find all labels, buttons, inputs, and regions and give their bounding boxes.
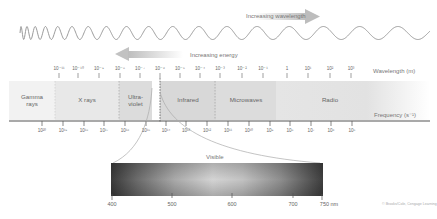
wavelength-tick: 10⁻¹¹ bbox=[53, 66, 64, 71]
visible-tick: 400 bbox=[107, 201, 116, 207]
frequency-tick: 10⁶ bbox=[327, 128, 334, 133]
wavelength-tick: 1 bbox=[286, 66, 289, 71]
band-infrared: Infrared bbox=[160, 96, 216, 103]
frequency-tick: 10¹⁶ bbox=[121, 128, 130, 133]
energy-arrow-label: Increasing energy bbox=[190, 52, 238, 58]
frequency-tick-marks bbox=[42, 121, 352, 126]
wavelength-axis-label: Wavelength (m) bbox=[373, 68, 415, 74]
wavelength-tick-marks bbox=[59, 73, 351, 78]
wavelength-tick: 10⁻⁴ bbox=[195, 66, 205, 71]
band-x-rays: X rays bbox=[55, 96, 119, 103]
band-radio: Radio bbox=[300, 96, 360, 103]
band-ultraviolet: Ultra- violet bbox=[119, 93, 152, 107]
frequency-tick: 10¹⁸ bbox=[80, 128, 89, 133]
wavelength-tick: 10¹ bbox=[305, 66, 312, 71]
frequency-tick: 10⁷ bbox=[308, 128, 315, 133]
frequency-tick: 10⁵ bbox=[348, 128, 355, 133]
frequency-tick: 10¹⁷ bbox=[100, 128, 108, 133]
frequency-tick: 10¹¹ bbox=[224, 128, 232, 133]
visible-tick: 700 bbox=[288, 201, 297, 207]
wavelength-tick: 10³ bbox=[348, 66, 355, 71]
frequency-tick: 10¹⁹ bbox=[59, 128, 68, 133]
frequency-tick: 10¹² bbox=[203, 128, 211, 133]
frequency-tick: 10¹⁵ bbox=[142, 128, 151, 133]
copyright-credit: © Brooks/Cole, Cengage Learning bbox=[382, 202, 437, 206]
visible-tick: 500 bbox=[167, 201, 176, 207]
wavelength-tick: 10⁻⁷ bbox=[135, 66, 145, 71]
frequency-axis-label: Frequency (s⁻¹) bbox=[374, 111, 416, 118]
visible-title: Visible bbox=[206, 154, 224, 160]
visible-tick: 600 bbox=[227, 201, 236, 207]
frequency-tick: 10⁹ bbox=[266, 128, 273, 133]
wavelength-tick: 10⁻¹ bbox=[258, 66, 268, 71]
wavelength-tick: 10² bbox=[327, 66, 334, 71]
frequency-tick: 10⁸ bbox=[286, 128, 293, 133]
frequency-tick: 10²⁰ bbox=[38, 128, 47, 133]
em-wave bbox=[20, 27, 430, 40]
wavelength-tick: 10⁻⁵ bbox=[175, 66, 185, 71]
visible-tick: 750 nm bbox=[320, 201, 338, 207]
wavelength-arrow-label: Increasing wavelength bbox=[246, 13, 306, 19]
frequency-tick: 10¹⁰ bbox=[245, 128, 254, 133]
wavelength-tick: 10⁻¹⁰ bbox=[72, 66, 84, 71]
frequency-tick: 10¹³ bbox=[182, 128, 190, 133]
wavelength-tick: 10⁻⁸ bbox=[115, 66, 125, 71]
frequency-tick: 10¹⁴ bbox=[162, 128, 171, 133]
band-gamma-rays: Gamma rays bbox=[9, 93, 55, 107]
band-microwaves: Microwaves bbox=[216, 96, 276, 103]
wavelength-tick: 10⁻² bbox=[237, 66, 247, 71]
wavelength-tick: 10⁻³ bbox=[215, 66, 225, 71]
energy-arrow bbox=[115, 47, 183, 61]
wavelength-tick: 10⁻⁶ bbox=[155, 66, 165, 71]
wavelength-tick: 10⁻⁹ bbox=[94, 66, 104, 71]
